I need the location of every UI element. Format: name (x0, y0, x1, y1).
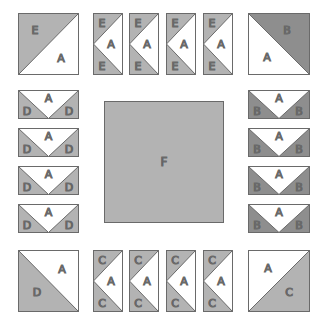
patch-label: A (217, 275, 225, 288)
patch-label: A (45, 92, 53, 105)
patch-label: D (33, 286, 41, 299)
patch-label: B (283, 24, 291, 37)
right-unit-4: A B B (249, 205, 310, 233)
patch-label: B (253, 143, 261, 156)
patch-label: F (161, 155, 168, 169)
patch-label: C (171, 254, 179, 267)
patch-label: A (275, 206, 283, 219)
center-square: F (105, 102, 224, 223)
patch-label: E (172, 17, 179, 30)
patch-label: C (98, 297, 106, 310)
patch-label: E (99, 60, 106, 73)
left-unit-4: A D D (19, 205, 79, 233)
patch-label: A (217, 38, 225, 51)
patch-label: B (253, 219, 261, 232)
patch-label: A (45, 130, 53, 143)
bottom-unit-3: C A C (167, 251, 196, 312)
corner-top-right: B A (249, 14, 310, 75)
patch-label: A (143, 38, 151, 51)
corner-bottom-right: A C (249, 251, 310, 312)
patch-label: A (45, 168, 53, 181)
patch-label: E (209, 60, 216, 73)
patch-label: A (180, 38, 188, 51)
patch-label: D (23, 105, 31, 118)
top-unit-1: E A E (94, 14, 123, 75)
right-unit-1: A B B (249, 91, 310, 119)
patch-label: A (45, 206, 53, 219)
bottom-unit-1: C A C (94, 251, 123, 312)
left-unit-1: A D D (19, 91, 79, 119)
left-unit-2: A D D (19, 129, 79, 157)
patch-label: A (275, 130, 283, 143)
quilt-block-diagram: E A B A D A A C E A E (0, 0, 330, 328)
patch-label: A (180, 275, 188, 288)
patch-label: B (295, 143, 303, 156)
right-unit-2: A B B (249, 129, 310, 157)
patch-label: C (134, 254, 142, 267)
patch-label: C (208, 254, 216, 267)
patch-label: A (143, 275, 151, 288)
patch-label: A (107, 38, 115, 51)
patch-label: C (134, 297, 142, 310)
patch-label: E (99, 17, 106, 30)
patch-label: A (107, 275, 115, 288)
patch-label: D (23, 181, 31, 194)
top-unit-3: E A E (167, 14, 196, 75)
patch-label: B (295, 181, 303, 194)
right-unit-3: A B B (249, 167, 310, 195)
patch-label: C (171, 297, 179, 310)
patch-label: E (32, 24, 39, 37)
patch-label: E (172, 60, 179, 73)
patch-label: D (23, 219, 31, 232)
patch-label: E (135, 60, 142, 73)
patch-label: B (295, 219, 303, 232)
patch-label: A (275, 168, 283, 181)
patch-label: C (208, 297, 216, 310)
patch-label: D (65, 105, 73, 118)
bottom-unit-2: C A C (130, 251, 159, 312)
patch-label: A (57, 52, 65, 65)
patch-label: C (98, 254, 106, 267)
top-unit-4: E A E (204, 14, 233, 75)
patch-label: B (295, 105, 303, 118)
patch-label: E (135, 17, 142, 30)
corner-top-left: E A (19, 14, 79, 75)
patch-label: A (58, 263, 66, 276)
patch-label: B (253, 181, 261, 194)
patch-label: A (275, 92, 283, 105)
bottom-unit-4: C A C (204, 251, 233, 312)
patch-label: D (65, 143, 73, 156)
patch-label: A (264, 262, 272, 275)
patch-label: E (209, 17, 216, 30)
patch-label: B (253, 105, 261, 118)
top-unit-2: E A E (130, 14, 159, 75)
patch-label: C (285, 286, 293, 299)
patch-label: D (65, 219, 73, 232)
patch-label: D (23, 143, 31, 156)
left-unit-3: A D D (19, 167, 79, 195)
patch-label: A (263, 51, 271, 64)
patch-label: D (65, 181, 73, 194)
corner-bottom-left: D A (19, 251, 79, 312)
